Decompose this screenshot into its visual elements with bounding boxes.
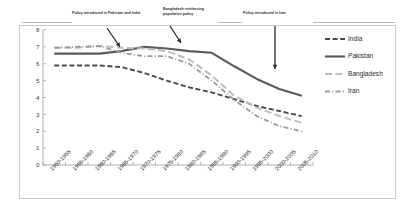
plot-area: 012345678 1950-19551955-19601960-1965196… [19, 25, 396, 199]
y-tick-label: 5 [36, 77, 40, 84]
x-tick-label: 1980-1985 [184, 149, 207, 172]
y-tick-label: 4 [36, 94, 40, 101]
annotation-bangladesh: Bangladesh reinforcing population policy [163, 7, 221, 17]
line-chart: Policy introduced in Pakistan and India … [0, 0, 414, 213]
legend-label-india: India [348, 35, 363, 42]
series-line-pakistan [54, 47, 302, 96]
y-tick-label: 6 [36, 60, 40, 67]
x-axis: 1950-19551955-19601960-19651965-19701970… [43, 149, 319, 172]
x-tick-label: 2005-2010 [296, 149, 319, 172]
x-tick-label: 1985-1990 [206, 149, 229, 172]
series-line-india [54, 65, 302, 116]
x-tick-label: 2000-2005 [274, 149, 297, 172]
annotation-leader-right [313, 22, 395, 23]
x-tick-label: 1950-1955 [49, 149, 72, 172]
annotation-leader-middle [218, 22, 242, 23]
x-tick-label: 1960-1965 [94, 149, 117, 172]
annotation-leader-left [22, 22, 72, 23]
y-tick-label: 1 [36, 144, 40, 151]
x-tick-label: 1990-1995 [229, 149, 252, 172]
x-tick-label: 1965-1970 [116, 149, 139, 172]
x-tick-label: 1995-2000 [251, 149, 274, 172]
x-tick-label: 1970-1975 [139, 149, 162, 172]
y-tick-label: 0 [36, 161, 40, 168]
series-line-iran [54, 46, 302, 131]
annotation-iran: Policy introduced in Iran [243, 11, 313, 16]
legend-label-iran: Iran [348, 87, 360, 94]
x-tick-label: 1955-1960 [71, 149, 94, 172]
series-layer [54, 46, 302, 131]
x-tick-label: 1975-1980 [161, 149, 184, 172]
annotation-pakistan-india: Policy introduced in Pakistan and India [72, 11, 168, 16]
legend-label-pakistan: Pakistan [348, 52, 374, 59]
y-tick-label: 2 [36, 127, 40, 134]
arrow-iran-head [273, 65, 278, 69]
y-tick-label: 7 [36, 43, 40, 50]
y-axis: 012345678 [36, 26, 46, 168]
chart-legend: IndiaPakistanBangladeshIran [325, 35, 383, 95]
y-tick-label: 3 [36, 111, 40, 118]
y-tick-label: 8 [36, 26, 40, 33]
legend-label-bangladesh: Bangladesh [348, 70, 383, 78]
